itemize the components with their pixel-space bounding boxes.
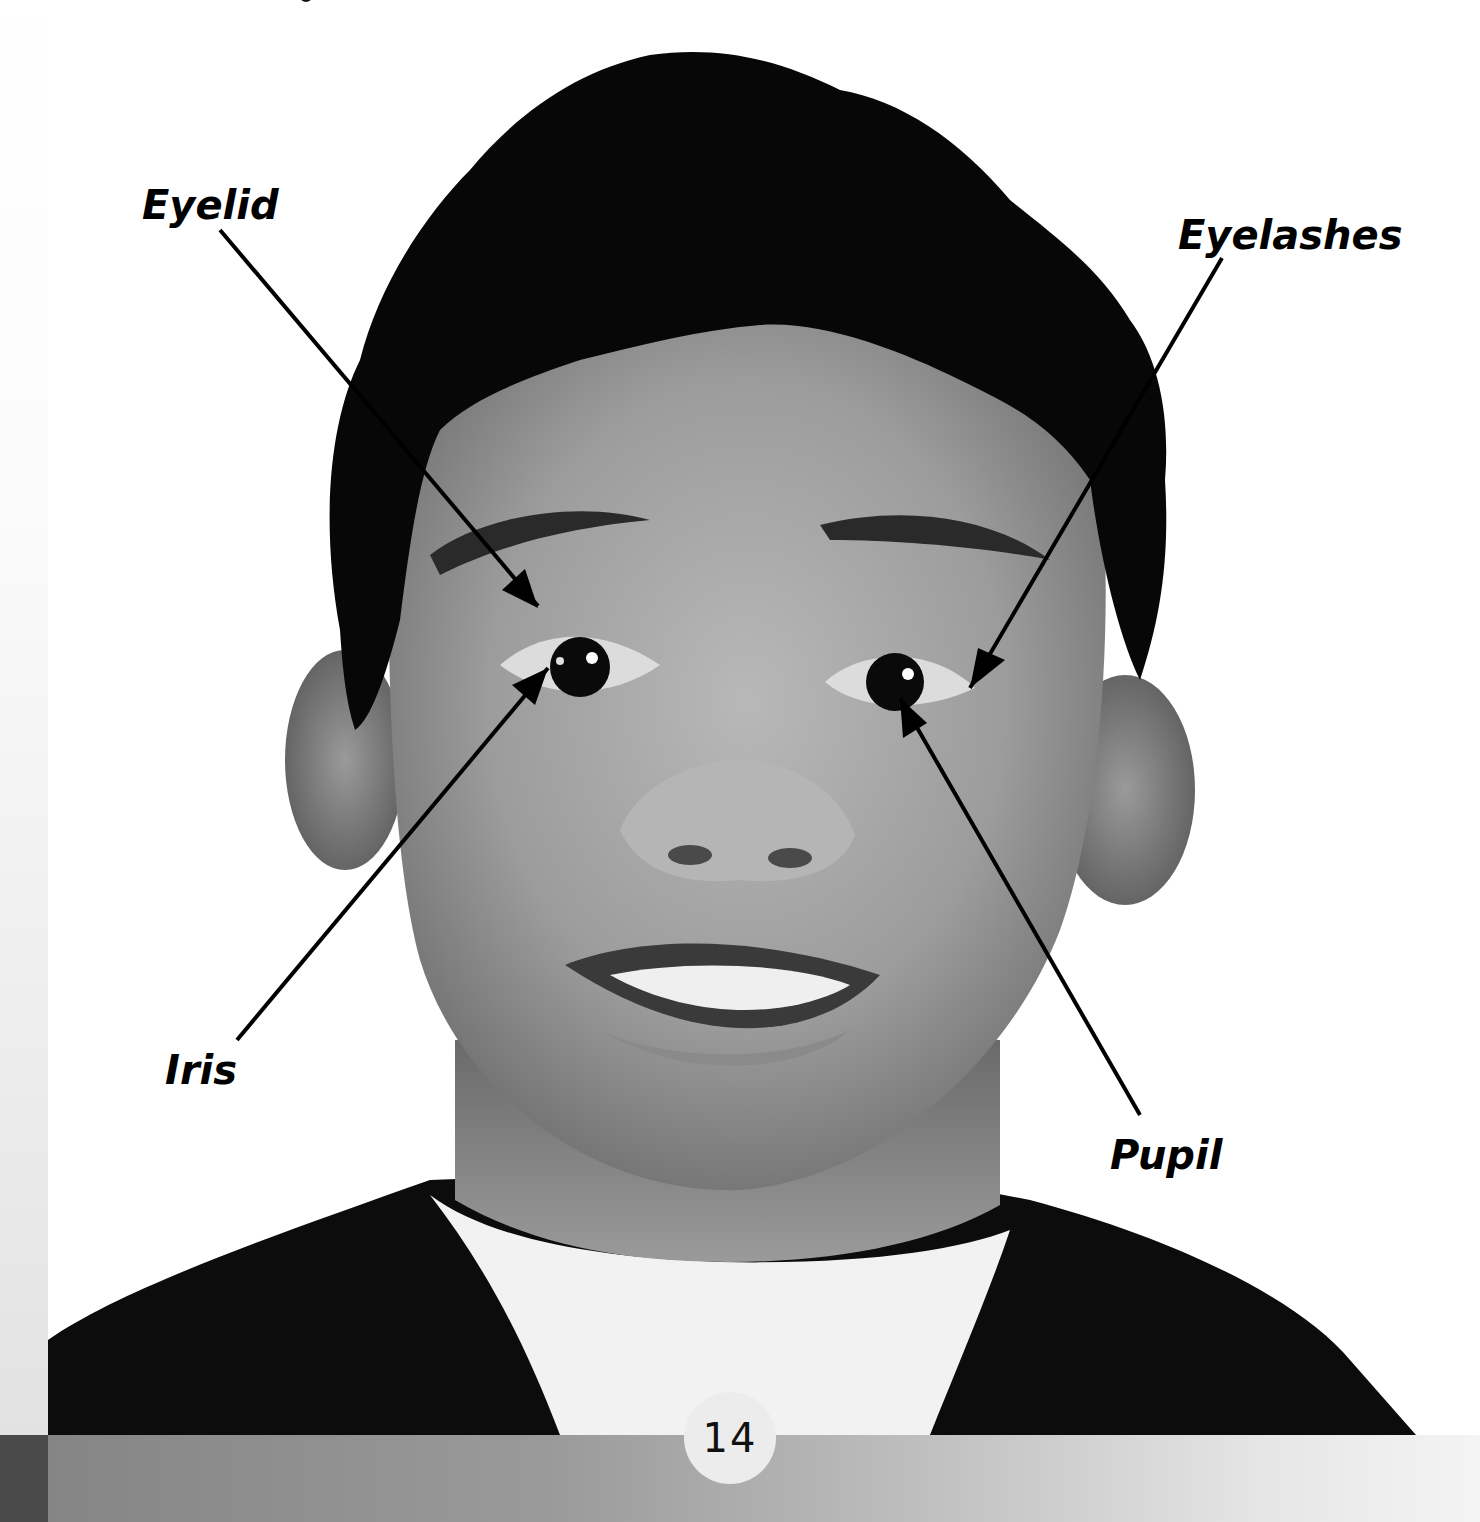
label-eyelid: Eyelid bbox=[142, 185, 279, 225]
label-iris: Iris bbox=[165, 1050, 237, 1090]
page-number: 14 bbox=[703, 1415, 758, 1461]
page-number-badge: 14 bbox=[684, 1392, 776, 1484]
page-left-corner-block bbox=[0, 1435, 48, 1522]
label-pupil: Pupil bbox=[1110, 1135, 1222, 1175]
label-eyelashes: Eyelashes bbox=[1178, 215, 1402, 255]
